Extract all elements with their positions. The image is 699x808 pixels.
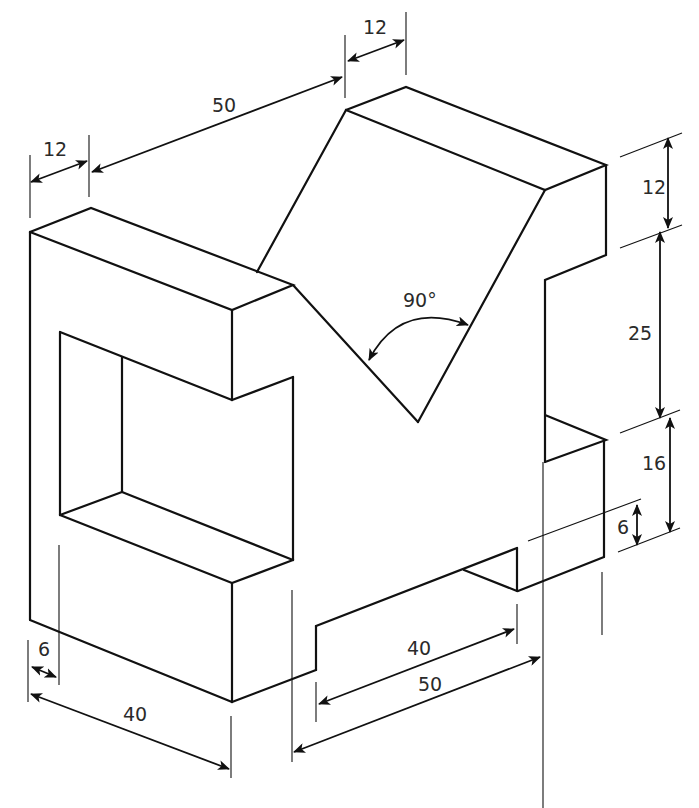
label-top-left-12: 12 [43,138,67,160]
right-block-side-profile [545,165,606,462]
window-top-edge [60,332,232,400]
dim-base-50 [294,657,540,752]
dimension-labels: 12 50 12 12 25 16 6 90° 6 40 40 50 [38,16,666,725]
label-right-16: 16 [642,452,666,474]
right-lower-bottom-edge [518,557,604,591]
label-top-50: 50 [212,94,236,116]
label-right-25: 25 [628,322,652,344]
dim-top-right-12 [348,40,404,61]
object-outline [30,87,606,702]
extension-lines [28,12,682,808]
label-left-6: 6 [38,638,50,660]
v-groove-back-slope-edge [257,110,346,272]
label-right-12: 12 [642,176,666,198]
label-right-6: 6 [617,516,629,538]
isometric-v-block-drawing: 12 50 12 12 25 16 6 90° 6 40 40 50 [0,0,699,808]
right-lower-step [545,415,606,462]
label-top-right-12: 12 [363,16,387,38]
upper-block-underside-edge [232,377,293,400]
window-inner-bottom-left-edge [60,492,122,515]
slot-back-edge [464,570,517,591]
label-front-40: 40 [123,703,147,725]
right-block-top-face [346,87,606,190]
label-slot-40: 40 [407,637,431,659]
label-base-50: 50 [418,673,442,695]
base-bottom-edge-left [232,670,316,702]
dim-angle-arc [369,318,468,360]
lower-block-top-right-edge [232,560,293,583]
dim-top-50 [92,77,342,172]
left-block-bottom-edge [30,620,232,702]
left-block-top-face [30,208,293,310]
dim-bottom-left-6 [32,667,56,677]
v-groove-left-face-edge [293,285,418,422]
slot-top-edge [316,548,517,626]
dim-top-left-12 [31,161,87,182]
v-groove-right-face-edge [418,190,545,422]
label-angle-90: 90° [403,289,437,311]
